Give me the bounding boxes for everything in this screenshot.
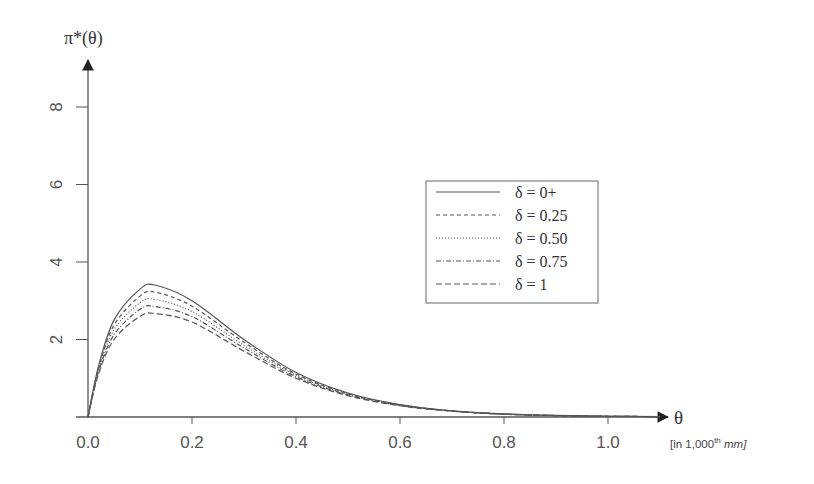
x-tick-label: 0.6 [388,433,412,452]
legend-label: δ = 0.25 [515,207,568,224]
y-tick-label: 6 [47,180,66,189]
series-line-1 [88,291,660,417]
y-tick-label: 4 [47,257,66,266]
legend-label: δ = 0+ [515,184,557,201]
y-tick-label: 2 [47,335,66,344]
legend-label: δ = 0.50 [515,230,568,247]
legend-label: δ = 0.75 [515,253,568,270]
legend-box [426,181,598,303]
x-tick-label: 0.2 [180,433,204,452]
chart: 2468 0.00.20.40.60.81.0 π*(θ) θ [in 1,00… [0,0,814,484]
series-line-4 [88,313,660,417]
series-lines [88,284,660,417]
series-line-0 [88,284,660,417]
x-axis-unit: [in 1,000th mm] [670,436,747,450]
series-line-3 [88,306,660,417]
x-tick-label: 0.8 [492,433,516,452]
x-ticks: 0.00.20.40.60.81.0 [76,417,620,452]
x-tick-label: 0.0 [76,433,100,452]
y-axis-label: π*(θ) [64,28,103,49]
legend: δ = 0+δ = 0.25δ = 0.50δ = 0.75δ = 1 [426,181,598,303]
x-tick-label: 0.4 [284,433,308,452]
y-ticks: 2468 [47,102,88,344]
x-axis-label: θ [674,407,683,428]
y-tick-label: 8 [47,102,66,111]
x-tick-label: 1.0 [596,433,620,452]
legend-label: δ = 1 [515,276,548,293]
